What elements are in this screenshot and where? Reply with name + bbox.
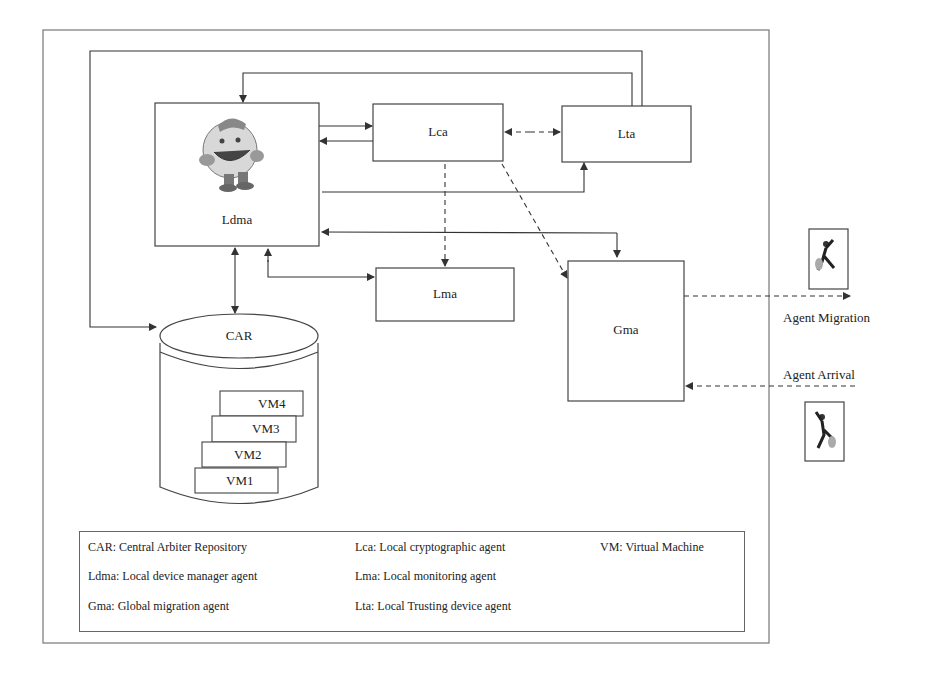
- car-label: CAR: [160, 328, 318, 344]
- lta-label: Lta: [562, 126, 691, 142]
- vm3-label: VM3: [252, 421, 279, 437]
- arriving-agent-icon: [805, 402, 844, 461]
- lca-label: Lca: [373, 124, 503, 140]
- lma-label: Lma: [376, 286, 514, 302]
- legend-box: CAR: Central Arbiter Repository Lca: Loc…: [79, 531, 745, 632]
- legend-item-ldma: Ldma: Local device manager agent: [88, 569, 257, 584]
- agent-arrival-label: Agent Arrival: [783, 367, 855, 383]
- legend-item-lta: Lta: Local Trusting device agent: [355, 599, 511, 614]
- gma-label: Gma: [568, 322, 684, 338]
- legend-item-gma: Gma: Global migration agent: [88, 599, 229, 614]
- arrow-lta-to-ldma: [243, 73, 632, 106]
- migrating-agent-icon: [809, 229, 848, 289]
- legend-item-car: CAR: Central Arbiter Repository: [88, 540, 247, 555]
- vm2-label: VM2: [234, 447, 261, 463]
- agent-migration-label: Agent Migration: [783, 310, 870, 326]
- vm4-label: VM4: [258, 396, 285, 412]
- legend-item-lca: Lca: Local cryptographic agent: [355, 540, 505, 555]
- arrow-lca-to-gma-dashed: [502, 164, 567, 278]
- arrow-ldma-lma: [268, 260, 374, 277]
- ldma-label: Ldma: [155, 212, 319, 228]
- legend-item-vm: VM: Virtual Machine: [600, 540, 704, 555]
- arrow-ldma-to-lta: [322, 163, 584, 192]
- legend-item-lma: Lma: Local monitoring agent: [355, 569, 496, 584]
- vm1-label: VM1: [226, 473, 253, 489]
